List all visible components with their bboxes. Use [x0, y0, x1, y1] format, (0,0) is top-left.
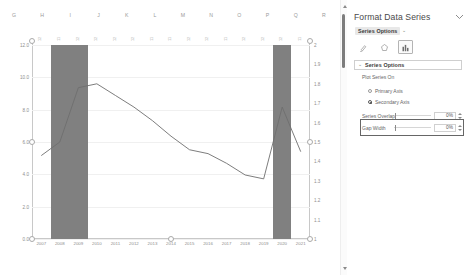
secondary-axis-tick: 1.3	[314, 178, 320, 183]
selection-handle[interactable]	[29, 236, 35, 242]
effects-icon[interactable]	[377, 40, 392, 54]
top-data-label-cell: 12	[69, 37, 88, 41]
data-label: 11	[151, 37, 155, 41]
top-data-label-cell: 12	[125, 37, 144, 41]
top-data-label-cell: 12	[273, 37, 292, 41]
spreadsheet-column-headers: G H I J K L M N O P Q R	[0, 8, 338, 22]
stepper-up-icon[interactable]	[458, 125, 462, 127]
scrollbar-thumb[interactable]	[342, 14, 345, 68]
stepper-down-icon[interactable]	[458, 129, 462, 131]
series-overlap-label: Series Overlap	[362, 113, 394, 119]
data-label: 12	[188, 37, 192, 41]
category-label: 2014	[162, 241, 181, 251]
secondary-axis-tick: 1.2	[314, 198, 320, 203]
selection-handle[interactable]	[29, 139, 35, 145]
selection-handle[interactable]	[307, 38, 313, 44]
column-header[interactable]: I	[56, 12, 84, 18]
series-overlap-value[interactable]: 0%	[434, 112, 456, 120]
series-overlap-stepper[interactable]	[457, 112, 462, 120]
secondary-axis-labels[interactable]: 11.11.21.31.41.51.61.71.81.92	[312, 45, 332, 239]
column-header[interactable]: N	[197, 12, 225, 18]
column-header[interactable]: G	[0, 12, 28, 18]
plot-area[interactable]	[32, 45, 310, 239]
gap-width-slider[interactable]	[394, 123, 431, 132]
column-header[interactable]: O	[225, 12, 253, 18]
scroll-down-icon[interactable]	[343, 267, 347, 270]
primary-axis-tick: 2.0	[23, 204, 29, 209]
series-options-section-header[interactable]: ⌄ Series Options	[354, 60, 462, 70]
selection-handle[interactable]	[307, 139, 313, 145]
column-header[interactable]: H	[28, 12, 56, 18]
category-label: 2021	[291, 241, 310, 251]
selection-handle[interactable]	[168, 236, 174, 242]
series-selector-dropdown[interactable]: Series Options ⌄	[355, 27, 406, 35]
data-label: 12	[132, 37, 136, 41]
secondary-axis-tick: 2	[314, 43, 317, 48]
chart-canvas[interactable]: 121112121212111112121112121211 0.02.04.0…	[0, 21, 338, 275]
panel-title: Format Data Series	[354, 12, 430, 22]
stepper-up-icon[interactable]	[458, 113, 462, 115]
series-overlap-slider[interactable]	[394, 111, 431, 120]
chevron-down-icon[interactable]: ⌄	[358, 63, 362, 68]
data-label: 11	[299, 37, 303, 41]
secondary-axis-tick: 1.7	[314, 101, 320, 106]
top-data-label-cell: 11	[51, 37, 70, 41]
category-label: 2016	[199, 241, 218, 251]
selection-handle[interactable]	[307, 236, 313, 242]
category-axis-labels: 2007200820092010201120122013201420152016…	[32, 241, 310, 251]
slider-track-line	[394, 127, 431, 128]
series-selector-label: Series Options	[355, 27, 400, 35]
secondary-axis-tick: 1.5	[314, 140, 320, 145]
stepper-down-icon[interactable]	[458, 117, 462, 119]
chevron-down-icon[interactable]	[454, 12, 464, 22]
radio-button-icon[interactable]	[368, 100, 372, 104]
excel-chart-with-format-panel: G H I J K L M N O P Q R 1211121212121111…	[0, 0, 470, 275]
data-label: 12	[243, 37, 247, 41]
secondary-axis-tick: 1.1	[314, 217, 320, 222]
panel-header: Format Data Series	[354, 10, 464, 24]
series-options-icon[interactable]	[398, 40, 413, 54]
column-header[interactable]: J	[85, 12, 113, 18]
data-label: 11	[58, 37, 62, 41]
category-label: 2012	[125, 241, 144, 251]
vertical-scrollbar[interactable]	[340, 0, 347, 275]
fill-and-line-icon[interactable]	[356, 40, 371, 54]
secondary-axis-tick: 1.6	[314, 120, 320, 125]
format-data-series-panel: Format Data Series Series Options ⌄	[348, 0, 470, 275]
category-label: 2009	[69, 241, 88, 251]
top-data-label-cell: 12	[199, 37, 218, 41]
series-overlap-control[interactable]: Series Overlap 0%	[362, 110, 462, 121]
gap-width-stepper[interactable]	[457, 124, 462, 132]
column-header[interactable]: Q	[282, 12, 310, 18]
column-header[interactable]: K	[113, 12, 141, 18]
radio-secondary-axis[interactable]: Secondary Axis	[368, 99, 409, 105]
selection-handle[interactable]	[29, 38, 35, 44]
radio-button-icon[interactable]	[368, 89, 372, 93]
slider-thumb[interactable]	[395, 113, 396, 119]
secondary-axis-tick: 1.4	[314, 159, 320, 164]
column-header[interactable]: M	[169, 12, 197, 18]
primary-axis-tick: 10.0	[20, 75, 29, 80]
top-data-label-cell: 12	[180, 37, 199, 41]
data-label: 12	[206, 37, 210, 41]
column-header[interactable]: R	[310, 12, 338, 18]
primary-axis-labels[interactable]: 0.02.04.06.08.010.012.0	[8, 45, 30, 239]
line-series[interactable]	[32, 45, 310, 239]
data-label: 12	[114, 37, 118, 41]
top-data-label-cell: 11	[162, 37, 181, 41]
category-label: 2013	[143, 241, 162, 251]
column-header[interactable]: L	[141, 12, 169, 18]
data-label: 11	[169, 37, 173, 41]
scroll-up-icon[interactable]	[343, 5, 347, 8]
gap-width-value[interactable]: 0%	[434, 124, 456, 132]
gap-width-label: Gap Width	[362, 125, 394, 131]
column-header[interactable]: P	[254, 12, 282, 18]
top-data-label-cell: 11	[143, 37, 162, 41]
slider-thumb[interactable]	[395, 125, 396, 131]
primary-axis-tick: 12.0	[20, 43, 29, 48]
gap-width-control[interactable]: Gap Width 0%	[362, 122, 462, 133]
chevron-down-icon[interactable]: ⌄	[402, 29, 406, 34]
line-series-svg	[32, 45, 310, 239]
radio-secondary-axis-label: Secondary Axis	[375, 99, 409, 105]
radio-primary-axis[interactable]: Primary Axis	[368, 88, 403, 94]
